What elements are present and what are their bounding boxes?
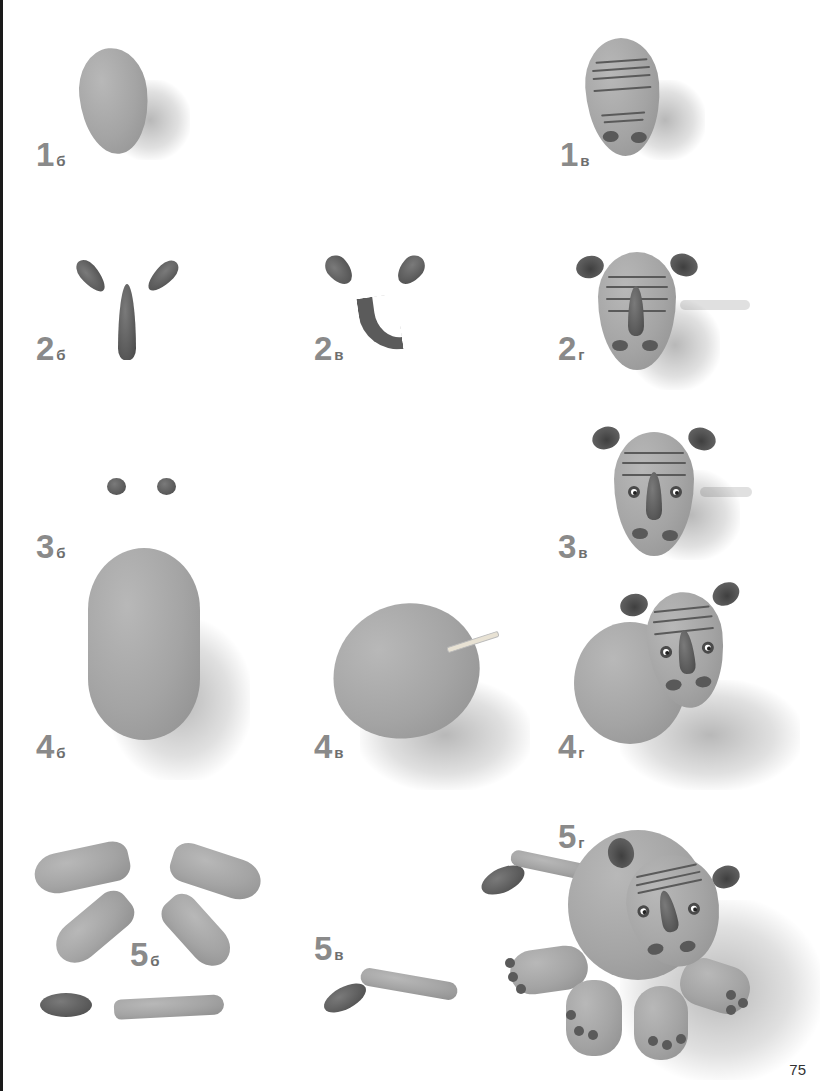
clay-leg-3 [47,884,140,971]
step-label-1b: 1б [36,138,66,171]
step-label-3b: 3б [36,530,66,563]
clay-eye-ball-right [157,478,176,495]
page-number: 75 [789,1061,806,1078]
clay-eye-ball-left [107,478,126,495]
clay-ear-piece-right [143,256,183,296]
clay-ear-piece-left [72,256,110,297]
clay-body-oval [88,548,200,740]
clay-curved-horn [356,293,403,354]
step-label-1v: 1в [560,138,590,171]
step-label-2b: 2б [36,332,66,365]
step-label-4g: 4г [558,730,585,763]
clay-tail-tip [40,993,92,1017]
step-label-5b: 5б [130,938,160,971]
step-label-2v: 2в [314,332,344,365]
clay-horn-piece [118,284,136,360]
clay-tail-curved [359,967,459,1002]
step-label-4b: 4б [36,730,66,763]
clay-tail-strip [114,994,225,1020]
clay-ear-cupped-right [392,251,429,290]
clay-leg-4 [155,888,238,974]
step-label-2g: 2г [558,332,585,365]
page-edge-border [0,0,3,1091]
clay-ear-cupped-left [320,251,357,290]
step-label-5v: 5в [314,932,344,965]
step-label-3v: 3в [558,530,588,563]
step-label-5g: 5г [558,820,585,853]
rhino-leg-front-right [634,986,688,1060]
step-label-4v: 4в [314,730,344,763]
clay-leg-1 [31,838,133,897]
